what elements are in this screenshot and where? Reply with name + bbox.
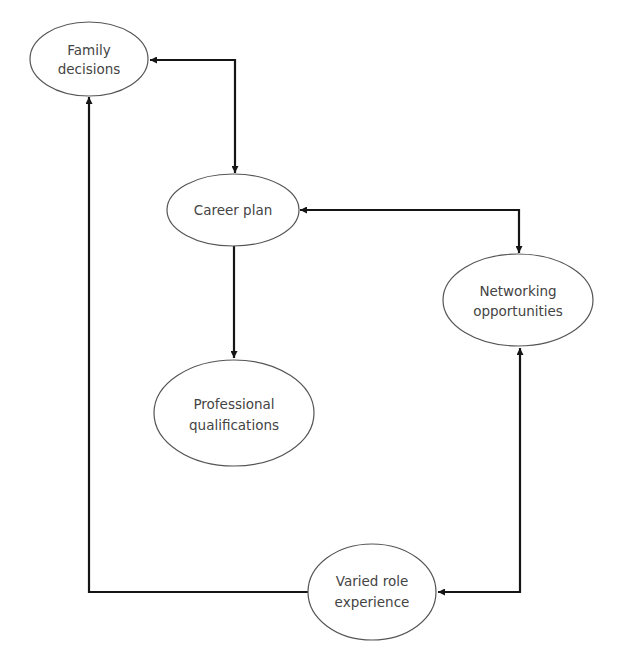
node-family-decisions-shape bbox=[30, 22, 148, 96]
node-varied-role-experience-label-line1: Varied role bbox=[336, 573, 409, 589]
node-career-plan-label: Career plan bbox=[194, 202, 273, 218]
edge-varied-networking bbox=[438, 348, 520, 592]
node-networking-opportunities: Networking opportunities bbox=[443, 254, 593, 346]
node-family-decisions-label-line1: Family bbox=[67, 42, 110, 58]
node-varied-role-experience-label-line2: experience bbox=[335, 594, 410, 610]
node-professional-qualifications-shape bbox=[154, 360, 314, 466]
edge-family-career bbox=[150, 60, 235, 173]
edge-career-networking bbox=[300, 210, 519, 253]
node-professional-qualifications-label-line2: qualifications bbox=[189, 417, 279, 433]
node-varied-role-experience-shape bbox=[308, 544, 436, 640]
career-diagram: Family decisions Career plan Networking … bbox=[0, 0, 623, 667]
node-networking-opportunities-label-line2: opportunities bbox=[473, 303, 563, 319]
node-family-decisions: Family decisions bbox=[30, 22, 148, 96]
node-varied-role-experience: Varied role experience bbox=[308, 544, 436, 640]
node-professional-qualifications: Professional qualifications bbox=[154, 360, 314, 466]
node-professional-qualifications-label-line1: Professional bbox=[193, 396, 274, 412]
node-networking-opportunities-label-line1: Networking bbox=[479, 283, 556, 299]
node-career-plan: Career plan bbox=[167, 174, 299, 246]
node-networking-opportunities-shape bbox=[443, 254, 593, 346]
edge-varied-family bbox=[89, 97, 308, 592]
node-family-decisions-label-line2: decisions bbox=[58, 61, 121, 77]
